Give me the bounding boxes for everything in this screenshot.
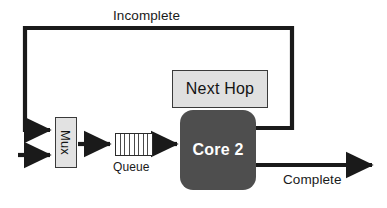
node-core-2[interactable]: Core 2 <box>180 110 256 190</box>
node-next-hop[interactable]: Next Hop <box>172 70 268 108</box>
node-mux[interactable]: Mux <box>55 117 77 168</box>
node-mux-label: Mux <box>59 130 74 155</box>
edge-label-complete: Complete <box>283 172 342 187</box>
queue-cell <box>148 134 152 155</box>
edge-label-incomplete: Incomplete <box>113 8 180 23</box>
diagram-canvas: Incomplete Next Hop Core 2 Mux Queue Com… <box>0 0 387 208</box>
node-queue[interactable] <box>115 133 153 156</box>
node-queue-label: Queue <box>113 160 150 174</box>
node-core-2-label: Core 2 <box>193 141 244 159</box>
node-next-hop-label: Next Hop <box>186 80 254 98</box>
